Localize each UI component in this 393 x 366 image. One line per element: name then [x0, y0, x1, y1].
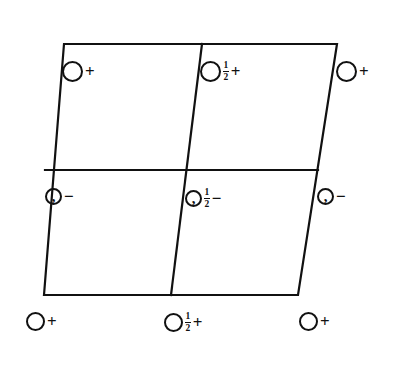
fraction-denominator: 2: [185, 322, 192, 333]
height-sign: −: [63, 188, 74, 205]
site-annotation: 1 2 +: [184, 312, 202, 333]
site-middle-right[interactable]: , −: [317, 188, 346, 205]
open-circle-icon: [336, 61, 357, 82]
height-sign: +: [192, 314, 203, 331]
open-circle-icon: [299, 312, 318, 331]
comma-circle-icon: ,: [185, 190, 202, 207]
height-fraction-one-half: 1 2: [203, 188, 211, 209]
site-annotation: +: [358, 63, 369, 80]
site-annotation: −: [63, 188, 74, 205]
fraction-numerator: 1: [204, 188, 211, 198]
site-annotation: 1 2 +: [222, 61, 240, 82]
site-annotation: −: [335, 188, 346, 205]
fraction-denominator: 2: [223, 71, 230, 82]
fraction-denominator: 2: [204, 198, 211, 209]
site-annotation: +: [84, 63, 95, 80]
comma-circle-icon: ,: [45, 188, 62, 205]
site-bottom-left[interactable]: +: [26, 312, 57, 331]
site-top-left[interactable]: +: [62, 61, 95, 82]
height-fraction-one-half: 1 2: [184, 312, 192, 333]
fraction-numerator: 1: [185, 312, 192, 322]
site-top-right[interactable]: +: [336, 61, 369, 82]
site-annotation: +: [319, 313, 330, 330]
height-sign: +: [84, 63, 95, 80]
height-sign: +: [358, 63, 369, 80]
site-middle-left[interactable]: , −: [45, 188, 74, 205]
height-fraction-one-half: 1 2: [222, 61, 230, 82]
open-circle-icon: [200, 61, 221, 82]
site-annotation: 1 2 −: [203, 188, 221, 209]
site-middle-center[interactable]: , 1 2 −: [185, 188, 221, 209]
height-sign: +: [46, 313, 57, 330]
site-annotation: +: [46, 313, 57, 330]
open-circle-icon: [164, 313, 183, 332]
comma-circle-icon: ,: [317, 188, 334, 205]
fraction-numerator: 1: [223, 61, 230, 71]
site-top-center[interactable]: 1 2 +: [200, 61, 240, 82]
open-circle-icon: [26, 312, 45, 331]
site-bottom-right[interactable]: +: [299, 312, 330, 331]
site-bottom-center[interactable]: 1 2 +: [164, 312, 202, 333]
height-sign: −: [211, 190, 222, 207]
height-sign: +: [230, 63, 241, 80]
height-sign: −: [335, 188, 346, 205]
space-group-diagram: + 1 2 + + , − , 1: [0, 0, 393, 366]
open-circle-icon: [62, 61, 83, 82]
height-sign: +: [319, 313, 330, 330]
